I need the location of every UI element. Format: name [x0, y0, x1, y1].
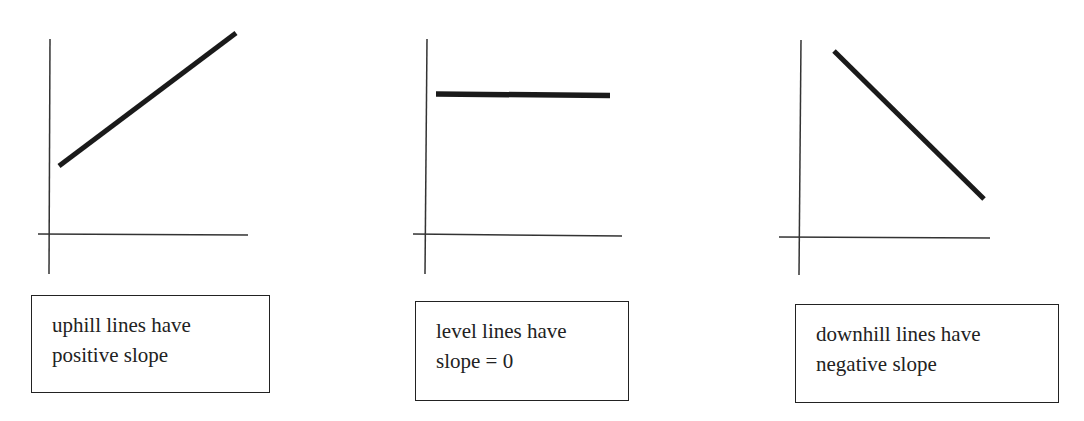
caption-line-1: downhill lines have	[816, 319, 1058, 349]
caption-line-2: positive slope	[52, 340, 269, 370]
caption-line-1: level lines have	[436, 316, 628, 346]
caption-box-downhill: downhill lines have negative slope	[795, 304, 1059, 403]
x-axis	[38, 234, 248, 235]
downhill-line	[834, 51, 984, 199]
caption-box-uphill: uphill lines have positive slope	[31, 295, 270, 393]
panel-uphill-graph	[38, 33, 248, 274]
uphill-line	[59, 33, 236, 166]
panel-level-graph	[413, 39, 622, 274]
caption-line-2: slope = 0	[436, 346, 628, 376]
caption-line-1: uphill lines have	[52, 310, 269, 340]
y-axis	[799, 40, 801, 275]
x-axis	[779, 237, 990, 238]
x-axis	[413, 234, 622, 236]
panel-downhill-graph	[779, 40, 990, 275]
y-axis	[425, 39, 427, 274]
level-line	[436, 94, 610, 96]
caption-box-level: level lines have slope = 0	[415, 301, 629, 401]
caption-line-2: negative slope	[816, 349, 1058, 379]
y-axis	[49, 39, 50, 274]
